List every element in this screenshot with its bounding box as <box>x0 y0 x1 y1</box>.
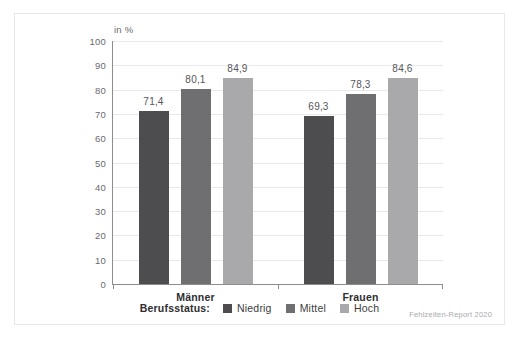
y-tick-label: 80 <box>95 84 106 95</box>
chart-figure: in % 0102030405060708090100 71,480,184,9… <box>14 13 505 325</box>
legend-label: Mittel <box>300 302 326 314</box>
y-tick-label: 20 <box>95 230 106 241</box>
gridline <box>113 41 443 42</box>
y-tick-label: 50 <box>95 157 106 168</box>
y-tick-label: 100 <box>90 36 106 47</box>
bar-value-label: 84,9 <box>227 63 247 74</box>
x-axis-tick <box>442 284 443 289</box>
legend-entry: Mittel <box>286 302 326 314</box>
bar-value-label: 71,4 <box>143 96 163 107</box>
x-axis-tick <box>113 284 114 289</box>
y-tick-label: 30 <box>95 206 106 217</box>
y-axis-line <box>112 41 113 285</box>
bar: 84,6 <box>388 78 418 284</box>
legend-entry: Hoch <box>340 302 379 314</box>
x-axis-tick <box>278 284 279 289</box>
bar: 84,9 <box>223 78 253 284</box>
bar-value-label: 80,1 <box>185 74 205 85</box>
y-tick-label: 70 <box>95 108 106 119</box>
y-tick-label: 0 <box>101 279 106 290</box>
bar: 69,3 <box>304 116 334 284</box>
legend-entry: Niedrig <box>223 302 272 314</box>
legend-swatch-icon <box>340 304 349 313</box>
y-tick-label: 90 <box>95 60 106 71</box>
legend-label: Niedrig <box>237 302 272 314</box>
y-axis-unit-label: in % <box>114 24 133 35</box>
bar-value-label: 84,6 <box>392 63 412 74</box>
legend-swatch-icon <box>286 304 295 313</box>
legend-title: Berufsstatus: <box>140 302 210 314</box>
source-note: Fehlzeiten-Report 2020 <box>409 310 492 319</box>
y-tick-label: 40 <box>95 181 106 192</box>
y-tick-label: 60 <box>95 133 106 144</box>
bar: 80,1 <box>181 89 211 284</box>
bar-value-label: 78,3 <box>350 79 370 90</box>
legend-swatch-icon <box>223 304 232 313</box>
legend-label: Hoch <box>354 302 379 314</box>
plot-area: in % 0102030405060708090100 71,480,184,9… <box>113 41 443 284</box>
bar: 71,4 <box>139 111 169 285</box>
bar-value-label: 69,3 <box>308 101 328 112</box>
legend-entries: NiedrigMittelHoch <box>223 302 379 314</box>
y-tick-label: 10 <box>95 254 106 265</box>
bar: 78,3 <box>346 94 376 284</box>
